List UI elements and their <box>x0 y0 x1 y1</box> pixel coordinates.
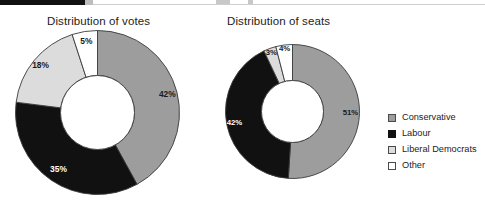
legend-label: Labour <box>402 129 431 138</box>
legend-label: Conservative <box>402 113 456 122</box>
legend-label: Other <box>402 161 425 170</box>
donut-chart-votes: 42%35%18%5% <box>14 29 181 196</box>
votes-center-hole <box>61 76 135 150</box>
votes-label-labour: 35% <box>50 164 67 174</box>
votes-label-liberal-democrats: 18% <box>32 60 49 70</box>
seats-label-liberal-democrats: 3% <box>266 48 277 57</box>
legend-swatch-icon-labour <box>388 130 396 138</box>
legend-label: Liberal Democrats <box>402 145 477 154</box>
header-black-block <box>0 0 85 5</box>
legend-item-liberal-democrats[interactable]: Liberal Democrats <box>388 142 483 157</box>
legend-swatch-icon-other <box>388 162 396 170</box>
chart-title-seats: Distribution of seats <box>227 15 330 27</box>
legend-item-other[interactable]: Other <box>388 158 483 173</box>
header-rule <box>93 4 485 5</box>
donut-votes-svg: 42%35%18%5% <box>14 29 181 196</box>
seats-label-labour: 42% <box>227 118 243 127</box>
donut-chart-seats: 51%42%3%4% <box>224 43 361 180</box>
cropped-header-strip <box>0 0 485 6</box>
legend-swatch-icon-conservative <box>388 114 396 122</box>
donut-seats-svg: 51%42%3%4% <box>224 43 361 180</box>
chart-title-votes: Distribution of votes <box>47 15 150 27</box>
votes-label-conservative: 42% <box>159 89 176 99</box>
header-gray-block <box>85 0 93 5</box>
chart-legend: ConservativeLabourLiberal DemocratsOther <box>388 110 483 174</box>
votes-label-other: 5% <box>80 36 93 46</box>
header-ghost-mark-1 <box>216 0 230 4</box>
seats-center-hole <box>262 81 324 143</box>
seats-label-conservative: 51% <box>343 108 359 117</box>
seats-label-other: 4% <box>279 44 290 53</box>
legend-item-conservative[interactable]: Conservative <box>388 110 483 125</box>
legend-swatch-icon-liberal-democrats <box>388 146 396 154</box>
legend-item-labour[interactable]: Labour <box>388 126 483 141</box>
header-ghost-mark-2 <box>248 0 253 4</box>
